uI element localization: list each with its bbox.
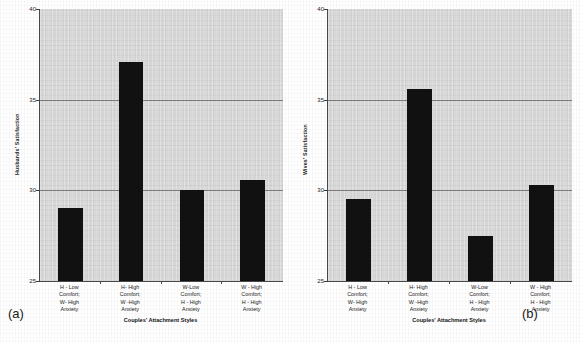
x-tick-label-line: W - High [221, 284, 282, 291]
x-tick-label-line: Anxiety [161, 306, 222, 313]
y-tick-mark [324, 190, 327, 191]
y-tick-label-30: 30 [308, 187, 324, 193]
panel-label-b: (b) [522, 306, 538, 321]
x-tick-label-line: Anxiety [388, 306, 449, 313]
y-tick-label-30: 30 [20, 187, 36, 193]
y-tick-label-35: 35 [20, 97, 36, 103]
x-tick-mark [161, 281, 162, 284]
x-tick-label-line: Comfort; [388, 291, 449, 298]
y-tick-mark [324, 281, 327, 282]
x-tick-label-line: Comfort; [449, 291, 510, 298]
bar [468, 236, 492, 281]
x-tick-label-line: Comfort; [100, 291, 161, 298]
x-tick-label: W-LowComfort;H - HighAnxiety [449, 284, 510, 314]
x-tick-label-line: Anxiety [39, 306, 100, 313]
plot-area-a [39, 9, 283, 282]
x-tick-label-line: Comfort; [161, 291, 222, 298]
y-tick-label-35: 35 [308, 97, 324, 103]
x-tick-label: H- HighComfort;W -HighAnxiety [388, 284, 449, 314]
x-tick-mark [100, 281, 101, 284]
x-tick-label-line: W-Low [161, 284, 222, 291]
figure-two-panel-bar-charts: Husbands' Satisfaction 40 35 30 25 H - L… [0, 0, 581, 342]
bar [180, 190, 204, 281]
y-tick-mark [36, 281, 39, 282]
x-tick-label-line: Comfort; [39, 291, 100, 298]
y-tick-label-25: 25 [20, 278, 36, 284]
x-tick-label-line: W -High [100, 299, 161, 306]
bar-series-a [40, 9, 283, 281]
bar [346, 199, 370, 281]
x-tick-label-line: Comfort; [221, 291, 282, 298]
x-tick-label-line: W-Low [449, 284, 510, 291]
x-axis-tick-labels-a: H - LowComfort;W- HighAnxietyH- HighComf… [39, 284, 282, 314]
bar [58, 208, 82, 281]
x-tick-label-line: H- High [388, 284, 449, 291]
x-tick-label-line: H - High [449, 299, 510, 306]
bar [240, 180, 264, 281]
x-tick-label: W - HighComfort;H - HighAnxiety [221, 284, 282, 314]
bar-series-b [328, 9, 572, 281]
bar [529, 185, 553, 281]
x-tick-label: W - HighComfort;H - HighAnxiety [510, 284, 571, 314]
panel-a: Husbands' Satisfaction 40 35 30 25 H - L… [0, 0, 290, 342]
y-tick-mark [324, 100, 327, 101]
x-tick-label: H - LowComfort;W- HighAnxiety [327, 284, 388, 314]
panel-b: Wives' Satisfaction 40 35 30 25 H - LowC… [290, 0, 581, 342]
x-tick-mark [221, 281, 222, 284]
x-tick-label-line: H- High [100, 284, 161, 291]
x-axis-title-a: Couples' Attachment Styles [39, 317, 282, 323]
bar [119, 62, 143, 281]
x-tick-label-line: W- High [327, 299, 388, 306]
x-tick-label: H - LowComfort;W- HighAnxiety [39, 284, 100, 314]
y-tick-label-40: 40 [308, 6, 324, 12]
x-tick-label-line: Anxiety [100, 306, 161, 313]
y-tick-label-25: 25 [308, 278, 324, 284]
x-tick-mark [449, 281, 450, 284]
plot-area-b [327, 9, 572, 282]
x-tick-label-line: H - High [221, 299, 282, 306]
x-tick-label-line: Anxiety [327, 306, 388, 313]
panel-label-a: (a) [8, 306, 24, 321]
x-tick-label-line: Anxiety [510, 306, 571, 313]
y-axis-title-a: Husbands' Satisfaction [14, 113, 20, 175]
x-tick-mark [388, 281, 389, 284]
x-tick-label-line: W- High [39, 299, 100, 306]
y-tick-mark [36, 190, 39, 191]
x-tick-label-line: H - Low [327, 284, 388, 291]
x-tick-label-line: Anxiety [221, 306, 282, 313]
bar [407, 89, 431, 281]
y-tick-label-40: 40 [20, 6, 36, 12]
y-tick-mark [36, 100, 39, 101]
x-tick-label: H- HighComfort;W -HighAnxiety [100, 284, 161, 314]
x-tick-label-line: W -High [388, 299, 449, 306]
x-tick-mark [510, 281, 511, 284]
x-tick-label-line: Comfort; [510, 291, 571, 298]
x-tick-label-line: H - High [161, 299, 222, 306]
y-tick-mark [36, 9, 39, 10]
y-tick-mark [324, 9, 327, 10]
x-tick-label: W-LowComfort;H - HighAnxiety [161, 284, 222, 314]
x-tick-label-line: H - High [510, 299, 571, 306]
x-tick-label-line: Comfort; [327, 291, 388, 298]
x-tick-label-line: Anxiety [449, 306, 510, 313]
x-tick-label-line: H - Low [39, 284, 100, 291]
x-tick-label-line: W - High [510, 284, 571, 291]
y-axis-title-b: Wives' Satisfaction [302, 124, 308, 175]
